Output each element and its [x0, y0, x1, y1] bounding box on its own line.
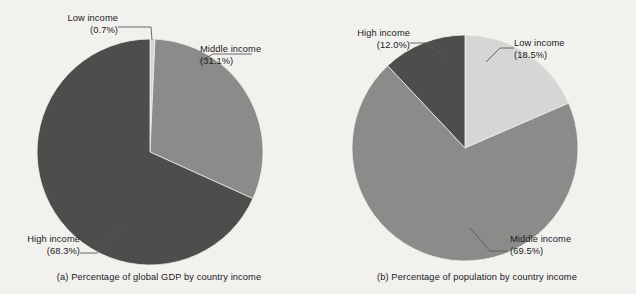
caption-panel-a: (a) Percentage of global GDP by country … [0, 272, 318, 282]
label-middle-income-a-pct: (31.1%) [200, 56, 292, 68]
label-middle-income-a-name: Middle income [200, 44, 261, 54]
leader-line-low-a [118, 27, 152, 40]
label-low-income-a: Low income (0.7%) [44, 13, 118, 36]
label-high-income-a-name: High income [27, 234, 80, 244]
label-high-income-b-pct: (12.0%) [330, 40, 410, 52]
panel-b-population: High income (12.0%) Low income (18.5%) M… [318, 0, 636, 294]
label-high-income-a-pct: (68.3%) [6, 246, 80, 258]
caption-panel-b: (b) Percentage of population by country … [318, 272, 636, 282]
figure-two-pie-charts: Low income (0.7%) Middle income (31.1%) … [0, 0, 636, 294]
label-middle-income-b: Middle income (69.5%) [510, 234, 604, 257]
label-low-income-b-name: Low income [514, 38, 565, 48]
label-low-income-a-pct: (0.7%) [44, 25, 118, 37]
label-high-income-b: High income (12.0%) [330, 28, 410, 51]
label-high-income-b-name: High income [357, 28, 410, 38]
label-middle-income-a: Middle income (31.1%) [200, 44, 292, 67]
label-middle-income-b-name: Middle income [510, 234, 571, 244]
label-middle-income-b-pct: (69.5%) [510, 246, 604, 258]
label-high-income-a: High income (68.3%) [6, 234, 80, 257]
label-low-income-b-pct: (18.5%) [514, 50, 598, 62]
label-low-income-b: Low income (18.5%) [514, 38, 598, 61]
label-low-income-a-name: Low income [67, 13, 118, 23]
panel-a-gdp: Low income (0.7%) Middle income (31.1%) … [0, 0, 318, 294]
